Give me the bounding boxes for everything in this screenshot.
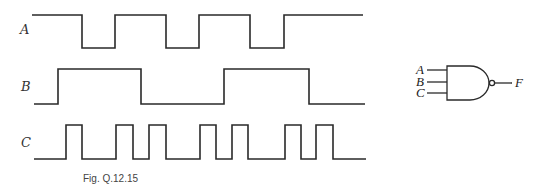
gate-output-label: F <box>514 75 524 90</box>
signal-c-waveform <box>34 125 366 159</box>
signal-a-waveform <box>32 15 363 48</box>
figure-caption: Fig. Q.12.15 <box>83 173 138 184</box>
nand-gate: A B C F <box>415 62 524 100</box>
gate-input-c-label: C <box>416 85 425 100</box>
signal-c: C <box>21 125 366 159</box>
timing-diagram: A B C Fig. Q.12.15 A B C F <box>0 0 542 194</box>
nand-gate-body <box>447 66 489 100</box>
signal-b: B <box>20 69 365 104</box>
signal-b-label: B <box>20 79 31 94</box>
signal-a-label: A <box>19 22 29 37</box>
inverter-bubble-icon <box>489 80 494 85</box>
signal-b-waveform <box>34 69 365 104</box>
signal-c-label: C <box>21 135 31 150</box>
signal-a: A <box>19 15 363 48</box>
